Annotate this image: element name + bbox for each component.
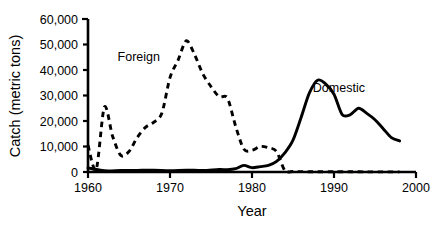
x-tick-label-2000: 2000 <box>402 181 430 195</box>
x-axis-title: Year <box>237 203 266 219</box>
x-tick-label-1990: 1990 <box>320 181 348 195</box>
y-tick-label-20000: 20,000 <box>40 115 78 129</box>
axes-group <box>82 19 416 178</box>
y-axis-title: Catch (metric tons) <box>7 35 23 157</box>
x-axis-tick-labels: 1960 1970 1980 1990 2000 <box>74 181 430 195</box>
x-tick-label-1970: 1970 <box>156 181 184 195</box>
y-tick-label-10000: 10,000 <box>40 140 78 154</box>
chart-container: 60,000 50,000 40,000 30,000 20,000 10,00… <box>0 0 438 235</box>
y-tick-label-40000: 40,000 <box>40 64 78 78</box>
series-annotations: Foreign Domestic <box>118 50 365 95</box>
series-label-foreign: Foreign <box>118 50 160 64</box>
axis-lines <box>88 19 416 172</box>
y-tick-label-30000: 30,000 <box>40 89 78 103</box>
y-axis-tick-labels: 60,000 50,000 40,000 30,000 20,000 10,00… <box>40 13 78 180</box>
y-tick-label-0: 0 <box>71 166 78 180</box>
y-tick-label-50000: 50,000 <box>40 38 78 52</box>
line-chart: 60,000 50,000 40,000 30,000 20,000 10,00… <box>0 0 438 235</box>
y-tick-label-60000: 60,000 <box>40 13 78 27</box>
x-tick-label-1960: 1960 <box>74 181 102 195</box>
x-tick-label-1980: 1980 <box>238 181 266 195</box>
series-label-domestic: Domestic <box>313 81 365 95</box>
